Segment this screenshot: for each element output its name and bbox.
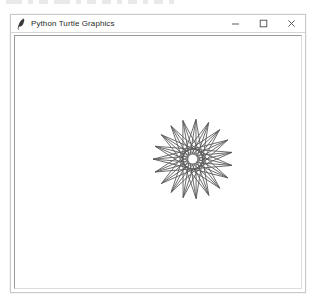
star-polygon-drawing [153,119,232,198]
close-button[interactable] [277,15,305,33]
maximize-button[interactable] [249,15,277,33]
minimize-icon [231,19,240,28]
window-title-bar[interactable]: Python Turtle Graphics [11,15,305,33]
close-icon [287,19,296,28]
turtle-drawing-canvas[interactable] [15,36,301,288]
minimize-button[interactable] [221,15,249,33]
python-feather-icon [16,18,27,30]
star-center-hub [188,154,197,163]
window-controls [221,15,305,32]
clipped-toolbar-strip [0,0,316,9]
maximize-icon [259,19,268,28]
window-title: Python Turtle Graphics [31,20,115,28]
turtle-graphics-window: Python Turtle Graphics [10,14,306,293]
clipped-toolbar-icons [6,0,174,4]
turtle-canvas-frame[interactable] [14,35,302,289]
